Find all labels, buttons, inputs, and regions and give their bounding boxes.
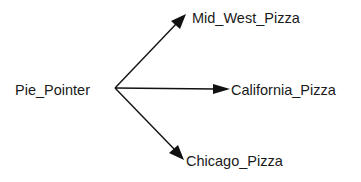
edge-to-chicago-pizza	[115, 88, 184, 160]
edge-line	[115, 88, 176, 151]
edge-to-california-pizza	[115, 84, 230, 94]
node-california-pizza: California_Pizza	[231, 82, 337, 98]
node-mid-west-pizza: Mid_West_Pizza	[192, 10, 301, 26]
edge-line	[115, 88, 216, 89]
edge-to-mid-west-pizza	[115, 14, 186, 88]
node-chicago-pizza: Chicago_Pizza	[186, 153, 284, 169]
arrowhead-icon	[169, 145, 184, 160]
node-pie-pointer: Pie_Pointer	[15, 82, 90, 98]
edge-line	[115, 22, 178, 88]
class-diagram: Pie_Pointer Mid_West_Pizza California_Pi…	[0, 0, 361, 182]
arrowhead-icon	[213, 84, 230, 94]
